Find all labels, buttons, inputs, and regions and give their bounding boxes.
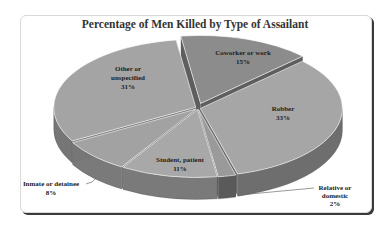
label-relative: Relative ordomestic2%: [319, 184, 352, 208]
pie-chart: Coworker or work15% Robber33% Other orun…: [0, 0, 390, 225]
slice-side: [218, 175, 235, 199]
label-inmate: Inmate or detainee8%: [23, 180, 79, 197]
leader-line-inmate: [86, 178, 96, 184]
